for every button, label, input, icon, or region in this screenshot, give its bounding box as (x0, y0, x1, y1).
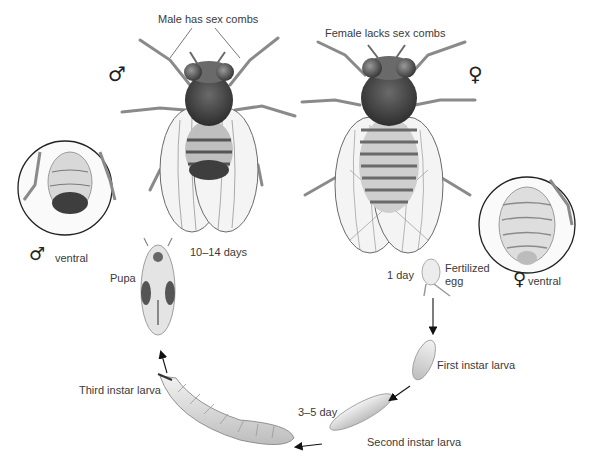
cycle-arrows (161, 298, 433, 447)
egg-label-line1: Fertilized (445, 262, 490, 275)
female-symbol-icon: ♀ (468, 62, 483, 86)
female-ventral-label: ventral (528, 275, 561, 288)
male-caption: Male has sex combs (158, 13, 258, 26)
male-ventral-symbol-icon: ♂ (29, 243, 45, 264)
male-ventral-label: ventral (55, 252, 88, 265)
larva-duration: 3–5 day (298, 406, 337, 419)
third-instar-label: Third instar larva (79, 384, 161, 397)
female-ventral-inset (479, 177, 575, 273)
first-instar-larva (408, 337, 440, 383)
egg-label-line2: egg (445, 275, 463, 288)
first-instar-label: First instar larva (437, 359, 515, 372)
pupa-illustration (141, 238, 175, 335)
pupa-duration: 10–14 days (190, 246, 247, 259)
male-symbol-icon: ♂ (108, 62, 126, 86)
male-ventral-inset (18, 141, 115, 235)
third-instar-larva (158, 374, 294, 445)
male-fly (122, 28, 295, 232)
female-fly (302, 42, 475, 253)
second-instar-label: Second instar larva (367, 436, 461, 449)
egg-duration: 1 day (387, 269, 414, 282)
pupa-label: Pupa (110, 272, 136, 285)
female-ventral-symbol-icon: ♀ (513, 268, 526, 289)
female-caption: Female lacks sex combs (325, 27, 445, 40)
